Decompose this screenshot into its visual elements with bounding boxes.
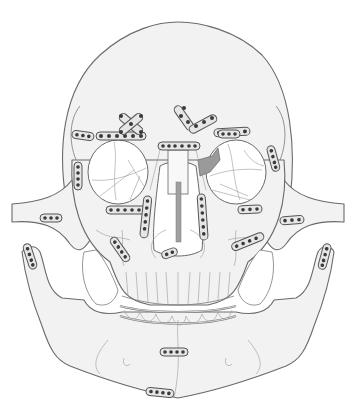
orbit-right — [206, 140, 266, 204]
arch-bar-upper — [120, 306, 236, 312]
plate-zygomatic-arch-right — [280, 215, 304, 225]
plate-symphysis-upper — [160, 348, 188, 356]
septal-strut — [176, 182, 181, 242]
plate-nasal-bridge — [158, 142, 200, 150]
orbit-left — [88, 140, 148, 204]
plate-zygomatic-arch-left — [40, 214, 62, 222]
plate-lateral-orbital-left — [74, 162, 82, 190]
plate-infraorbital-right — [238, 205, 262, 214]
skull-diagram — [0, 0, 356, 414]
skull-illustration — [0, 0, 356, 414]
plate-infraorbital-left — [106, 206, 148, 214]
plate-lateral-frontal-right — [218, 130, 240, 138]
